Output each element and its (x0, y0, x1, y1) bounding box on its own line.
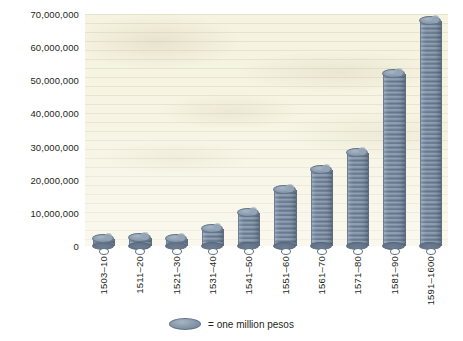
y-axis-tick-label: 30,000,000 (30, 141, 79, 152)
coin-stack (383, 74, 405, 246)
bar (93, 239, 113, 246)
bar (238, 213, 258, 246)
coin-stack-top-notch (286, 184, 293, 192)
coin-disc-icon (169, 318, 201, 330)
x-axis-tick-label: 1591–1600 (425, 256, 436, 305)
coin-stack (420, 21, 442, 246)
pictorial-bar-chart: 010,000,00020,000,00030,000,00040,000,00… (0, 0, 463, 341)
x-axis: 1503–101511–201521–301531–401541–501551–… (85, 256, 448, 312)
bar (311, 170, 331, 246)
x-axis-tick-marker (244, 248, 254, 255)
x-axis-tick-label: 1551–60 (280, 256, 291, 294)
legend-label: = one million pesos (208, 319, 294, 330)
bars-layer (85, 14, 448, 246)
bar (420, 21, 440, 246)
coin-stack (274, 190, 296, 246)
coin-stack-top-notch (432, 15, 439, 23)
y-axis-tick-label: 0 (74, 241, 79, 252)
x-axis-tick-label: 1511–20 (134, 256, 145, 294)
chart-legend: = one million pesos (0, 312, 463, 336)
x-axis-tick-marker (317, 248, 327, 255)
x-axis-tick-marker (281, 248, 291, 255)
y-axis-tick-label: 40,000,000 (30, 108, 79, 119)
x-axis-tick-label: 1561–70 (316, 256, 327, 294)
y-axis-tick-label: 60,000,000 (30, 42, 79, 53)
y-axis-tick-label: 50,000,000 (30, 75, 79, 86)
coin-stack-top-notch (141, 232, 148, 240)
x-axis-tick-marker (208, 248, 218, 255)
y-axis-tick-label: 20,000,000 (30, 174, 79, 185)
bar (347, 153, 367, 246)
x-axis-tick-label: 1541–50 (243, 256, 254, 294)
bar (202, 229, 222, 246)
x-axis-tick-label: 1521–30 (171, 256, 182, 294)
x-axis-tick-marker (99, 248, 109, 255)
y-axis-tick-label: 10,000,000 (30, 207, 79, 218)
x-axis-tick-marker (353, 248, 363, 255)
bar (129, 238, 149, 246)
bar (383, 74, 403, 246)
bar (274, 190, 294, 246)
coin-stack-top-notch (395, 68, 402, 76)
x-axis-tick-label: 1571–80 (352, 256, 363, 294)
coin-stack (311, 170, 333, 246)
bar (166, 239, 186, 246)
x-axis-tick-label: 1531–40 (207, 256, 218, 294)
x-axis-tick-marker (390, 248, 400, 255)
x-axis-tick-marker (135, 248, 145, 255)
x-axis-tick-label: 1503–10 (98, 256, 109, 294)
x-axis-ticks (85, 246, 448, 256)
coin-stack (347, 153, 369, 246)
coin-stack (238, 213, 260, 246)
y-axis-tick-label: 70,000,000 (30, 9, 79, 20)
x-axis-tick-label: 1581–90 (389, 256, 400, 294)
x-axis-tick-marker (172, 248, 182, 255)
y-axis: 010,000,00020,000,00030,000,00040,000,00… (0, 0, 79, 341)
x-axis-tick-marker (426, 248, 436, 255)
coin-stack-top-notch (323, 164, 330, 172)
